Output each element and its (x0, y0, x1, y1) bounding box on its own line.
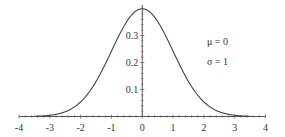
mu-annotation: μ = 0 (207, 36, 228, 47)
x-tick-label: -4 (15, 122, 23, 133)
x-tick-label: 1 (171, 122, 176, 133)
normal-distribution-chart: -4-3-2-101234 0.10.20.3 μ = 0 σ = 1 (0, 0, 285, 137)
sigma-annotation: σ = 1 (207, 56, 228, 67)
axes (19, 5, 266, 119)
x-tick-label: 4 (263, 122, 268, 133)
y-tick-label: 0.1 (126, 84, 139, 95)
x-tick-label: 3 (232, 122, 237, 133)
y-axis-labels: 0.10.20.3 (126, 30, 139, 95)
x-axis-labels: -4-3-2-101234 (15, 122, 268, 133)
x-tick-label: -3 (46, 122, 54, 133)
x-tick-label: -2 (76, 122, 84, 133)
x-tick-label: 2 (201, 122, 206, 133)
x-tick-label: 0 (140, 122, 145, 133)
x-tick-label: -1 (107, 122, 115, 133)
y-tick-label: 0.2 (126, 57, 139, 68)
y-tick-label: 0.3 (126, 30, 139, 41)
